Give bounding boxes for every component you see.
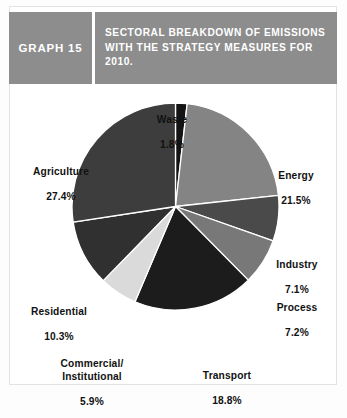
pie-label-waste-name: Waste — [129, 114, 215, 126]
pie-label-energy: Energy 21.5% — [257, 158, 335, 220]
pie-label-residential-value: 10.3% — [9, 331, 109, 343]
pie-label-commercial-institutional-value: 5.9% — [39, 396, 145, 408]
pie-label-waste: Waste 1.8% — [129, 102, 215, 164]
pie-label-commercial-institutional-name: Commercial/ Institutional — [39, 358, 145, 383]
chart-title-cell: SECTORAL BREAKDOWN OF EMISSIONS WITH THE… — [95, 12, 337, 84]
pie-label-energy-name: Energy — [257, 170, 335, 182]
chart-plot-area: Waste 1.8% Energy 21.5% Agriculture 27.4… — [9, 84, 337, 385]
graph-page: GRAPH 15 SECTORAL BREAKDOWN OF EMISSIONS… — [0, 0, 347, 418]
pie-label-process-name: Process — [257, 302, 337, 314]
page-title: SECTORAL BREAKDOWN OF EMISSIONS WITH THE… — [105, 26, 329, 70]
pie-label-agriculture-value: 27.4% — [11, 191, 111, 203]
pie-label-agriculture: Agriculture 27.4% — [11, 154, 111, 216]
pie-label-residential-name: Residential — [9, 306, 109, 318]
pie-label-energy-value: 21.5% — [257, 195, 335, 207]
pie-label-process-value: 7.2% — [257, 327, 337, 339]
pie-label-industry-name: Industry — [259, 259, 335, 271]
pie-label-transport-name: Transport — [177, 370, 277, 382]
pie-label-waste-value: 1.8% — [129, 139, 215, 151]
chart-header-band: GRAPH 15 SECTORAL BREAKDOWN OF EMISSIONS… — [9, 12, 337, 84]
graph-number-cell: GRAPH 15 — [9, 12, 92, 84]
graph-number-label: GRAPH 15 — [19, 42, 83, 54]
pie-label-process: Process 7.2% — [257, 290, 337, 352]
pie-label-transport: Transport 18.8% — [177, 358, 277, 418]
pie-label-commercial-institutional: Commercial/ Institutional 5.9% — [39, 346, 145, 418]
pie-label-agriculture-name: Agriculture — [11, 166, 111, 178]
pie-label-transport-value: 18.8% — [177, 395, 277, 407]
